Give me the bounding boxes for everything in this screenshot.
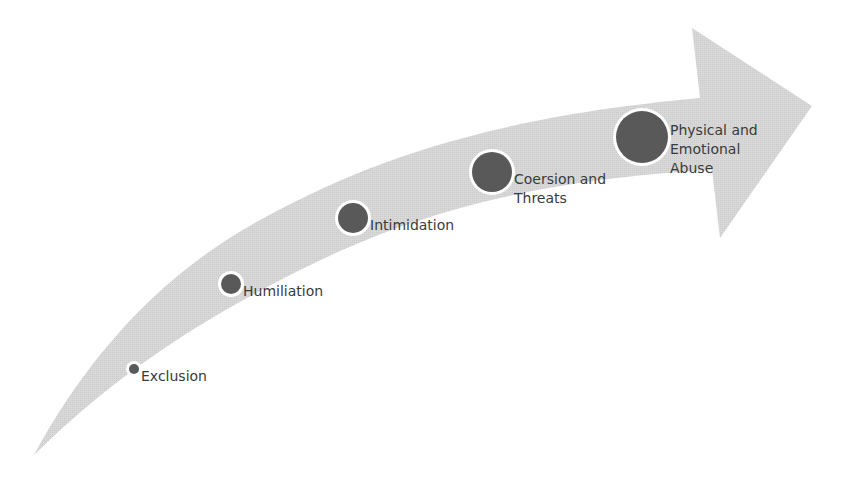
stage-label: Humiliation bbox=[243, 282, 323, 301]
stage-node-dot bbox=[616, 111, 668, 163]
stage-node-dot bbox=[472, 152, 512, 192]
stage-label: Exclusion bbox=[141, 367, 207, 386]
stage-node-dot bbox=[221, 274, 241, 294]
stage-label: Physical and Emotional Abuse bbox=[670, 121, 758, 178]
stage-node-dot bbox=[338, 203, 368, 233]
escalation-arrow bbox=[34, 28, 812, 455]
stage-node-dot bbox=[129, 364, 139, 374]
stage-label: Coersion and Threats bbox=[514, 170, 606, 208]
diagram-canvas bbox=[0, 0, 844, 480]
stage-label: Intimidation bbox=[370, 216, 454, 235]
